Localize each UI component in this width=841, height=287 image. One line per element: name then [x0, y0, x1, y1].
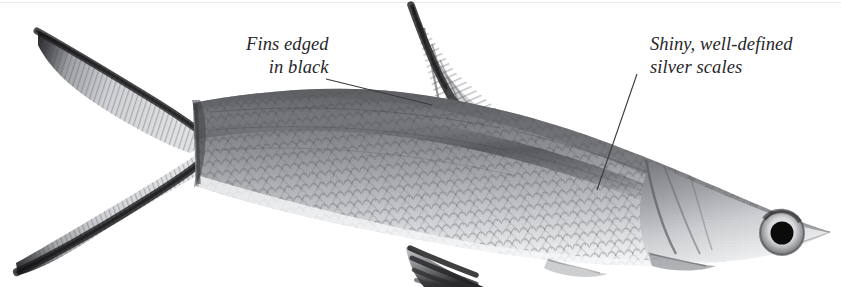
callout-fins-line-2: in black	[246, 56, 329, 79]
callout-scales-line-2: silver scales	[650, 56, 793, 79]
callout-silver-scales: Shiny, well-defined silver scales	[650, 33, 793, 79]
anal-fin	[406, 246, 484, 287]
callout-scales-line-1: Shiny, well-defined	[650, 33, 793, 56]
caudal-fin	[16, 31, 209, 275]
figure-canvas: Fins edged in black Shiny, well-defined …	[0, 0, 841, 287]
fish-eye	[760, 211, 804, 255]
fish-head	[640, 160, 830, 262]
eye-pupil	[771, 222, 794, 245]
callout-fins-edged-in-black: Fins edged in black	[246, 33, 329, 79]
callout-fins-line-1: Fins edged	[246, 33, 329, 56]
